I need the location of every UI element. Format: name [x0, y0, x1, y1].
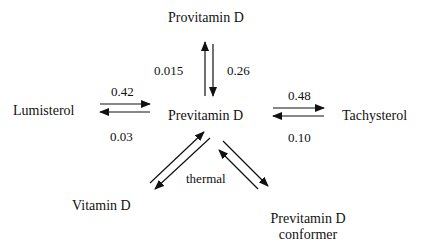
rate-pre-to-lumi: 0.03 [110, 130, 133, 144]
node-tachysterol: Tachysterol [342, 108, 407, 124]
rate-pre-to-pro: 0.015 [154, 64, 183, 78]
rate-tachy-to-pre: 0.10 [288, 131, 311, 145]
rate-pro-to-pre: 0.26 [227, 64, 250, 78]
conformer-line-2: conformer [266, 227, 350, 243]
conformer-line-1: Previtamin D [266, 211, 350, 227]
node-previtamin-d-conformer: Previtamin D conformer [266, 211, 350, 243]
label-thermal: thermal [186, 172, 226, 186]
rate-pre-to-tachy: 0.48 [288, 89, 311, 103]
node-previtamin-d: Previtamin D [168, 108, 243, 124]
node-lumisterol: Lumisterol [13, 103, 74, 119]
arrow-pre-to-conf [223, 141, 268, 186]
rate-lumi-to-pre: 0.42 [111, 85, 134, 99]
reaction-diagram: Provitamin D Previtamin D Lumisterol Tac… [0, 0, 424, 246]
node-vitamin-d: Vitamin D [72, 198, 131, 214]
node-provitamin-d: Provitamin D [168, 10, 244, 26]
